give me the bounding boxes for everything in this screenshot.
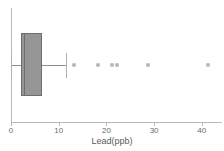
x-tick-label: 40 (197, 126, 206, 135)
median-line (24, 33, 25, 96)
outlier-point (207, 63, 210, 66)
whisker-right (42, 65, 66, 66)
outlier-point (115, 63, 118, 66)
x-tick-label: 0 (9, 126, 13, 135)
outlier-point (111, 63, 114, 66)
whisker-cap-right (66, 53, 67, 78)
outlier-point (96, 63, 99, 66)
whisker-cap-left (11, 53, 12, 78)
x-axis-title: Lead(ppb) (0, 136, 224, 147)
x-tick-label: 20 (102, 126, 111, 135)
x-axis-line (11, 122, 222, 123)
whisker-left (11, 65, 21, 66)
outlier-point (72, 63, 75, 66)
x-tick-label: 30 (150, 126, 159, 135)
boxplot-chart: 010203040 Lead(ppb) (0, 0, 224, 151)
outlier-point (146, 63, 149, 66)
x-tick-label: 10 (54, 126, 63, 135)
